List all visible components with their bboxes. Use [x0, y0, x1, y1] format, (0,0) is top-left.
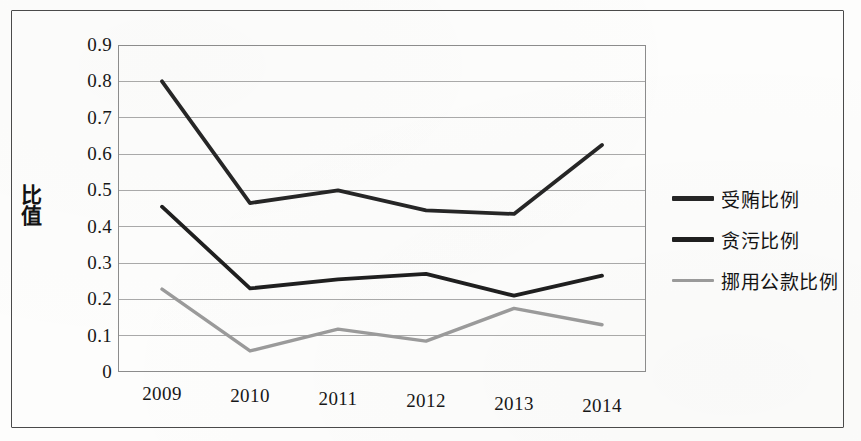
- y-axis-tick-label: 0.7: [64, 108, 112, 127]
- legend-item-2[interactable]: 贪污比例: [672, 219, 852, 260]
- y-axis-title: 比值: [16, 185, 46, 228]
- y-axis-tick-label: 0.1: [64, 326, 112, 345]
- legend-swatch-icon: [672, 279, 714, 282]
- legend-item-1[interactable]: 受贿比例: [672, 178, 852, 219]
- x-axis-tick-label: 2009: [117, 383, 207, 405]
- y-axis-tick-label: 0.8: [64, 71, 112, 90]
- legend: 受贿比例贪污比例挪用公款比例: [672, 178, 852, 301]
- y-axis-tick-label: 0.4: [64, 217, 112, 236]
- legend-label: 贪污比例: [721, 226, 799, 253]
- legend-swatch-icon: [672, 237, 714, 241]
- line-chart: 比值 0.90.80.70.60.50.40.30.20.10 20092010…: [0, 0, 861, 441]
- y-axis-tick-label: 0: [64, 362, 112, 381]
- x-axis-tick-label: 2014: [557, 395, 647, 417]
- plot-area-frame: [118, 45, 646, 372]
- x-axis-tick-label: 2010: [205, 385, 295, 407]
- legend-label: 挪用公款比例: [721, 267, 838, 294]
- x-axis-tick-label: 2013: [469, 393, 559, 415]
- legend-swatch-icon: [672, 196, 714, 200]
- y-axis-tick-label: 0.9: [64, 35, 112, 54]
- y-axis-tick-label: 0.3: [64, 253, 112, 272]
- legend-item-3[interactable]: 挪用公款比例: [672, 260, 852, 301]
- x-axis-tick-label: 2011: [293, 388, 383, 410]
- y-axis-tick-label: 0.5: [64, 180, 112, 199]
- x-axis-tick-label: 2012: [381, 390, 471, 412]
- y-axis-tick-label: 0.6: [64, 144, 112, 163]
- y-axis-tick-label: 0.2: [64, 289, 112, 308]
- legend-label: 受贿比例: [721, 185, 799, 212]
- chart-page: 比值 0.90.80.70.60.50.40.30.20.10 20092010…: [0, 0, 861, 441]
